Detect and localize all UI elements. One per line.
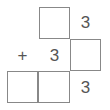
plus-sign: + bbox=[7, 40, 38, 72]
digit-result-ones: 3 bbox=[70, 72, 101, 104]
blank-box-result-hundreds[interactable] bbox=[7, 71, 38, 103]
digit-top-ones: 3 bbox=[70, 7, 101, 39]
blank-box-result-tens[interactable] bbox=[38, 71, 70, 103]
blank-box-mid-ones[interactable] bbox=[70, 39, 101, 71]
digit-mid-tens: 3 bbox=[39, 40, 70, 72]
blank-box-top-tens[interactable] bbox=[39, 7, 70, 39]
